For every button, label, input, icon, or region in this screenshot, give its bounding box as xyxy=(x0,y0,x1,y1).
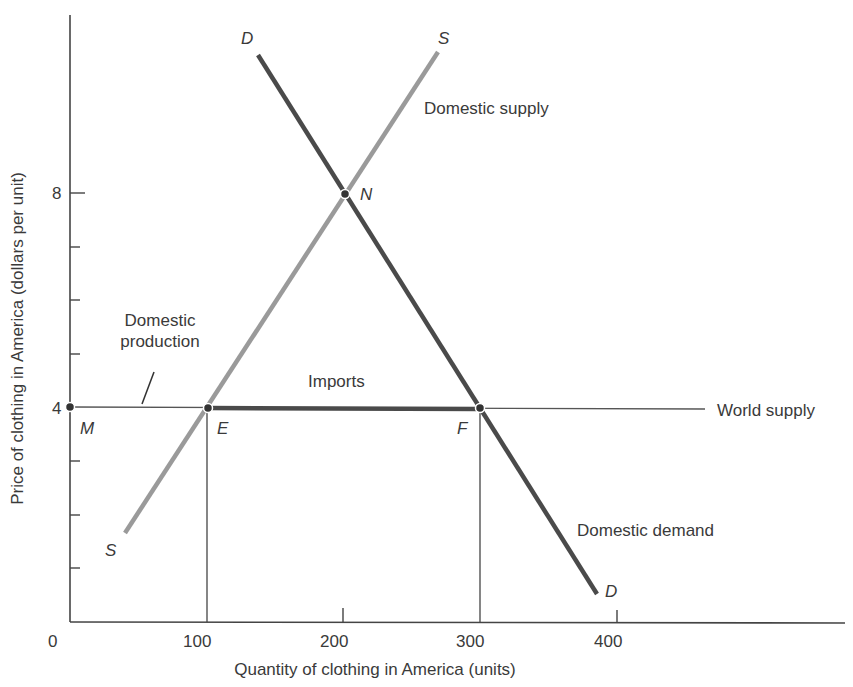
domestic-production-label-1: Domestic xyxy=(100,312,220,329)
y-tick-4: 4 xyxy=(52,400,61,417)
point-f-label: F xyxy=(457,420,467,437)
point-e-label: E xyxy=(217,420,228,437)
imports-label: Imports xyxy=(308,373,365,390)
x-axis-label: Quantity of clothing in America (units) xyxy=(200,661,550,678)
supply-label-bottom: S xyxy=(105,542,116,559)
y-ticks xyxy=(70,193,85,568)
point-n-label: N xyxy=(360,186,372,203)
imports-line xyxy=(207,408,480,409)
x-tick-400: 400 xyxy=(594,633,622,650)
domestic-production-label-2: production xyxy=(100,333,220,350)
x-axis xyxy=(70,622,845,623)
world-supply-label: World supply xyxy=(717,402,815,419)
demand-curve xyxy=(258,55,597,594)
x-tick-0: 0 xyxy=(48,633,57,650)
demand-label-bottom: D xyxy=(605,583,617,600)
supply-label-top: S xyxy=(438,30,449,47)
demand-label-top: D xyxy=(241,30,253,47)
production-pointer xyxy=(142,372,154,404)
domestic-demand-label: Domestic demand xyxy=(577,522,714,539)
domestic-supply-label: Domestic supply xyxy=(424,100,549,117)
y-axis-label: Price of clothing in America (dollars pe… xyxy=(9,164,26,514)
y-tick-8: 8 xyxy=(52,185,61,202)
x-tick-200: 200 xyxy=(320,633,348,650)
x-tick-100: 100 xyxy=(183,633,211,650)
point-m-label: M xyxy=(80,420,94,437)
supply-curve xyxy=(125,52,438,533)
x-tick-300: 300 xyxy=(456,633,484,650)
